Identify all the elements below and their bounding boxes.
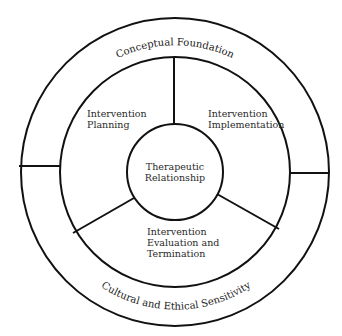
segment-evaluation-line-3: Termination — [147, 248, 205, 259]
center-label-line-2: Relationship — [145, 172, 205, 183]
center-label-line-1: Therapeutic — [146, 161, 204, 172]
segment-implementation-line-1: Intervention — [208, 108, 268, 119]
spoke-lower-left — [73, 198, 134, 233]
segment-planning: Intervention Planning — [87, 108, 147, 130]
segment-evaluation-line-1: Intervention — [147, 226, 207, 237]
segment-evaluation: Intervention Evaluation and Termination — [147, 226, 219, 259]
segment-evaluation-line-2: Evaluation and — [147, 237, 219, 248]
segment-planning-line-1: Intervention — [87, 108, 147, 119]
center-label: Therapeutic Relationship — [145, 161, 205, 183]
spoke-lower-right — [217, 194, 279, 229]
segment-implementation-line-2: Implementation — [208, 119, 284, 130]
diagram-canvas: Conceptual Foundation Cultural and Ethic… — [0, 0, 342, 336]
segment-planning-line-2: Planning — [87, 119, 130, 130]
outer-ring-bottom-label: Cultural and Ethical Sensitivity — [100, 279, 253, 312]
